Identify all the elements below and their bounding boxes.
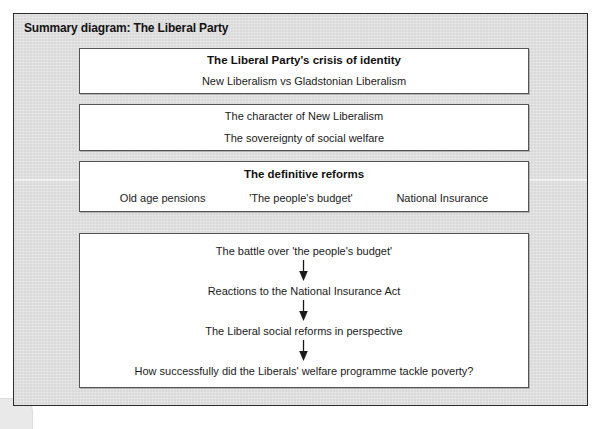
diagram-box-new-liberalism: The character of New Liberalism The sove… (79, 104, 529, 151)
diagram-box-reform-flow: The battle over 'the people's budget' Re… (79, 233, 529, 388)
flow-step-reactions-to-national-insurance-act: Reactions to the National Insurance Act (208, 285, 401, 297)
reform-item-national-insurance: National Insurance (396, 191, 488, 206)
diagram-box-definitive-reforms: The definitive reforms Old age pensions … (79, 161, 529, 212)
box-line-character-of-new-liberalism: The character of New Liberalism (225, 109, 383, 124)
definitive-reforms-items: Old age pensions 'The people's budget' N… (80, 191, 528, 206)
flow-step-liberal-social-reforms-in-perspective: The Liberal social reforms in perspectiv… (205, 325, 402, 337)
reform-item-old-age-pensions: Old age pensions (120, 191, 206, 206)
flow-step-how-successfully-tackle-poverty: How successfully did the Liberals' welfa… (135, 365, 474, 377)
reform-flow-list: The battle over 'the people's budget' Re… (135, 245, 474, 377)
flow-step-battle-over-peoples-budget: The battle over 'the people's budget' (216, 245, 392, 257)
arrow-down-icon (298, 300, 309, 322)
diagram-title: Summary diagram: The Liberal Party (24, 21, 228, 35)
diagram-box-crisis-of-identity: The Liberal Party's crisis of identity N… (79, 48, 529, 94)
box-heading-crisis-of-identity: The Liberal Party's crisis of identity (207, 53, 401, 69)
box-line-sovereignty-of-social-welfare: The sovereignty of social welfare (224, 131, 384, 146)
box-heading-definitive-reforms: The definitive reforms (244, 167, 364, 183)
arrow-down-icon (298, 340, 309, 362)
summary-diagram-panel: Summary diagram: The Liberal Party The L… (13, 13, 588, 406)
box-line-new-vs-gladstonian: New Liberalism vs Gladstonian Liberalism (202, 74, 406, 89)
reform-item-peoples-budget: 'The people's budget' (249, 191, 353, 206)
arrow-down-icon (298, 260, 309, 282)
